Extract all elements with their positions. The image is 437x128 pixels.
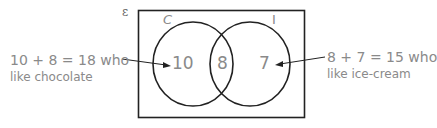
universal-set-symbol: ε <box>122 5 128 19</box>
set-i-only-count: 7 <box>259 53 270 73</box>
right-annotation-line2: like ice-cream <box>327 67 411 81</box>
right-arrow-line <box>280 57 325 64</box>
set-i-label: I <box>272 12 276 27</box>
set-c-only-count: 10 <box>172 53 194 73</box>
left-annotation-line1: 10 + 8 = 18 who <box>10 52 129 68</box>
right-arrowhead-icon <box>275 61 283 67</box>
set-c-label: C <box>163 12 172 27</box>
left-arrowhead-icon <box>163 62 171 68</box>
right-annotation-line1: 8 + 7 = 15 who <box>327 49 437 65</box>
left-annotation-line2: like chocolate <box>10 70 93 84</box>
intersection-count: 8 <box>217 53 228 73</box>
